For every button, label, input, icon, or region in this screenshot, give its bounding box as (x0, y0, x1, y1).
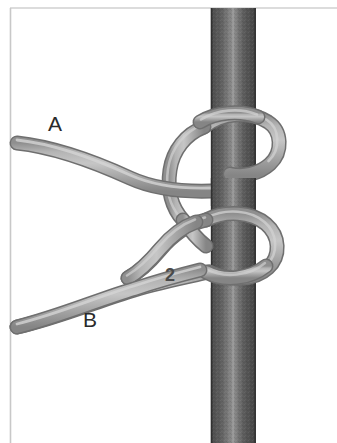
label-strand-b: B (83, 309, 97, 330)
label-strand-a: A (48, 113, 62, 134)
label-step-number: 2 (165, 266, 175, 284)
knot-diagram-figure: A B 2 (0, 0, 337, 443)
knot-illustration (0, 0, 337, 443)
figure-border (10, 8, 337, 443)
rope-upper-loop-left (167, 125, 204, 221)
